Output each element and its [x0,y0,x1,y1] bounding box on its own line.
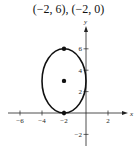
x-tick-label: −6 [16,117,24,125]
ellipse-plot: xy−6−4−22−2246 [0,0,137,146]
y-tick-label: 2 [79,88,83,96]
center-point [62,79,66,83]
x-tick-label: −2 [60,117,68,125]
y-tick-label: 4 [79,67,83,75]
x-tick-label: −4 [38,117,46,125]
x-axis-label: x [129,110,134,118]
y-axis-label: y [83,18,88,26]
vertex-point [62,47,66,51]
y-tick-label: 6 [79,45,83,53]
y-axis-arrow-icon [84,26,88,32]
y-tick-label: −2 [75,131,83,139]
x-axis-arrow-icon [122,111,128,115]
vertex-point [62,111,66,115]
x-tick-label: 2 [106,117,110,125]
